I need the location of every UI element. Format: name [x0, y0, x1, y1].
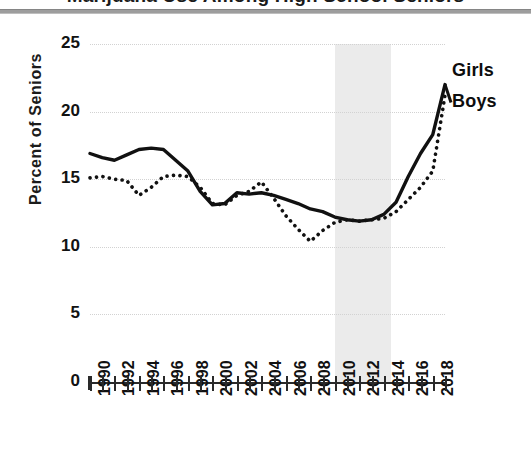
x-tick: [396, 376, 398, 391]
series-line-boys: [90, 85, 445, 222]
x-tick: [298, 376, 300, 391]
x-tick-label: 1998: [194, 382, 212, 396]
x-tick: [225, 376, 227, 391]
x-tick-label: 1996: [169, 382, 187, 396]
y-tick-label: 5: [40, 303, 80, 323]
y-tick-label: 25: [40, 33, 80, 53]
x-tick: [237, 376, 239, 391]
page-title-clipped: Marijuana Use Among High School Seniors: [0, 0, 531, 9]
chart-figure: Percent of Seniors 2520151050 1990199219…: [0, 12, 531, 471]
x-tick: [274, 376, 276, 391]
x-tick-label: 2002: [243, 382, 261, 396]
x-tick-label: 1994: [145, 382, 163, 396]
x-tick: [335, 376, 337, 391]
x-tick: [127, 376, 129, 391]
x-tick: [139, 376, 141, 391]
x-tick-label: 2012: [365, 382, 383, 396]
x-tick: [90, 376, 92, 391]
x-tick: [421, 376, 423, 391]
x-tick: [212, 376, 214, 391]
boys-leader-line: [445, 85, 451, 103]
x-tick: [114, 376, 116, 391]
series-label-boys: Boys: [452, 91, 497, 112]
x-tick-label: 2018: [439, 382, 457, 396]
page-title: Marijuana Use Among High School Seniors: [0, 0, 531, 7]
x-tick: [384, 376, 386, 391]
series-line-girls: [90, 95, 445, 241]
y-tick-label: 20: [40, 101, 80, 121]
x-tick: [347, 376, 349, 391]
x-tick-label: 2004: [267, 382, 285, 396]
x-tick: [323, 376, 325, 391]
y-tick-label: 10: [40, 236, 80, 256]
x-tick: [310, 376, 312, 391]
x-tick: [151, 376, 153, 391]
x-tick: [261, 376, 263, 391]
x-tick-label: 2010: [341, 382, 359, 396]
x-tick-label: 2000: [218, 382, 236, 396]
x-tick: [200, 376, 202, 391]
x-tick-label: 1990: [96, 382, 114, 396]
x-tick-label: 2006: [292, 382, 310, 396]
x-tick: [102, 376, 104, 391]
x-tick-label: 2008: [316, 382, 334, 396]
x-tick: [433, 376, 435, 391]
y-tick-label: 15: [40, 168, 80, 188]
x-tick: [408, 376, 410, 391]
x-tick-label: 2014: [390, 382, 408, 396]
x-tick: [188, 376, 190, 391]
y-tick-label: 0: [40, 371, 80, 391]
x-tick: [163, 376, 165, 391]
x-tick-label: 2016: [414, 382, 432, 396]
x-tick: [249, 376, 251, 391]
x-tick: [359, 376, 361, 391]
x-tick: [445, 376, 447, 391]
x-tick: [286, 376, 288, 391]
x-tick: [372, 376, 374, 391]
series-layer: [90, 44, 445, 382]
x-tick-label: 1992: [120, 382, 138, 396]
x-tick: [176, 376, 178, 391]
plot-area: [90, 44, 445, 382]
series-label-girls: Girls: [452, 60, 494, 81]
